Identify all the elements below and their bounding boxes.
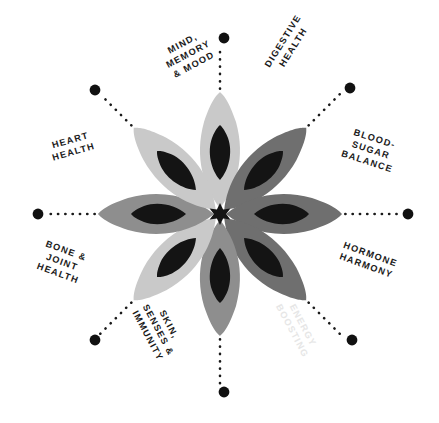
center-flower-graphic [0, 0, 439, 423]
radial-wheel-diagram: MIND, MEMORY & MOODDIGESTIVE HEALTHBLOOD… [0, 0, 439, 423]
